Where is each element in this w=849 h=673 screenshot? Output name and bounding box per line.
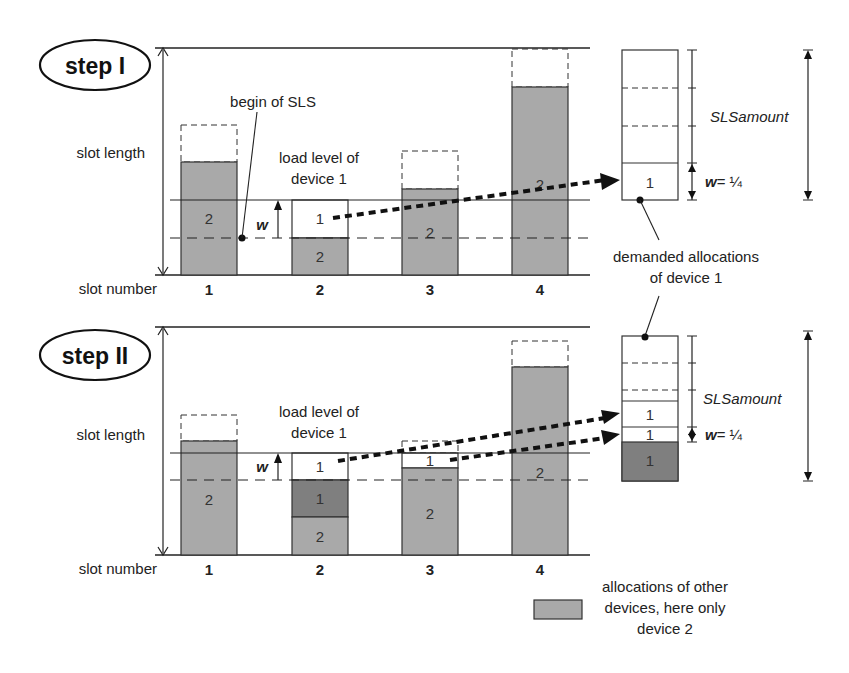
demanded-label-2: of device 1 xyxy=(650,269,723,286)
svg-text:slot number: slot number xyxy=(79,560,157,577)
svg-text:allocations of other: allocations of other xyxy=(602,578,728,595)
sls-diagram: step I slot length slot number 1 2 3 4 2… xyxy=(0,0,849,673)
svg-text:2: 2 xyxy=(205,491,213,508)
slot-number-1: 1 xyxy=(205,281,213,298)
svg-text:1: 1 xyxy=(646,174,654,191)
slot-number-3: 3 xyxy=(426,281,434,298)
slot-number-label: slot number xyxy=(79,280,157,297)
svg-text:2: 2 xyxy=(205,210,213,227)
step1-title: step I xyxy=(65,53,125,79)
slot-number-2: 2 xyxy=(316,281,324,298)
svg-text:w= ¼: w= ¼ xyxy=(705,426,743,443)
svg-text:SLSamount: SLSamount xyxy=(703,390,782,407)
step2-panel: step II slot length slot number 1 2 3 4 … xyxy=(40,327,813,578)
svg-text:load level of: load level of xyxy=(279,149,360,166)
svg-text:load level of: load level of xyxy=(279,403,360,420)
svg-text:2: 2 xyxy=(316,528,324,545)
svg-text:2: 2 xyxy=(536,464,544,481)
w-label: w xyxy=(256,216,269,233)
svg-text:1: 1 xyxy=(316,458,324,475)
svg-text:1: 1 xyxy=(646,452,654,469)
bar4-capacity xyxy=(512,49,568,87)
svg-text:4: 4 xyxy=(536,561,545,578)
svg-text:slot length: slot length xyxy=(77,426,145,443)
svg-text:2: 2 xyxy=(316,561,324,578)
sls-amount-label: SLSamount xyxy=(710,108,789,125)
w-quarter-label: w= ¼ xyxy=(705,173,743,190)
svg-text:1: 1 xyxy=(646,426,654,443)
svg-text:1: 1 xyxy=(426,452,434,469)
demanded-label-1: demanded allocations xyxy=(613,248,759,265)
svg-text:1: 1 xyxy=(646,406,654,423)
svg-text:device 1: device 1 xyxy=(291,424,347,441)
legend-swatch xyxy=(534,600,582,619)
svg-text:1: 1 xyxy=(316,490,324,507)
svg-text:device 2: device 2 xyxy=(637,620,693,637)
bar3-capacity xyxy=(402,151,458,189)
slot-number-4: 4 xyxy=(536,281,545,298)
bar1-capacity xyxy=(181,125,237,162)
step2-title: step II xyxy=(62,343,128,369)
step1-panel: step I slot length slot number 1 2 3 4 2… xyxy=(40,40,813,336)
svg-text:2: 2 xyxy=(316,248,324,265)
svg-text:3: 3 xyxy=(426,561,434,578)
svg-text:1: 1 xyxy=(205,561,213,578)
svg-text:device 1: device 1 xyxy=(291,170,347,187)
svg-text:devices, here only: devices, here only xyxy=(605,599,726,616)
svg-text:w: w xyxy=(256,458,269,475)
legend: allocations of other devices, here only … xyxy=(534,578,728,637)
begin-sls-label: begin of SLS xyxy=(230,93,316,110)
svg-text:1: 1 xyxy=(316,210,324,227)
slot-length-label: slot length xyxy=(77,144,145,161)
svg-text:2: 2 xyxy=(426,505,434,522)
